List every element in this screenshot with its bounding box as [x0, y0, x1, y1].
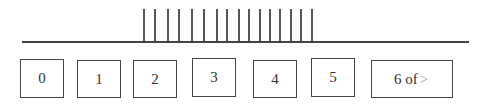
- page-box-4[interactable]: 4: [253, 60, 297, 98]
- tick-mark: [203, 9, 205, 41]
- tick-mark: [226, 9, 228, 41]
- tick-marks: [0, 0, 482, 44]
- tick-mark: [259, 9, 261, 41]
- next-page-button[interactable]: 6 of >: [371, 60, 453, 98]
- page-label: 5: [329, 69, 337, 86]
- tick-mark: [300, 9, 302, 41]
- tick-mark: [311, 9, 313, 41]
- tick-mark: [248, 9, 250, 41]
- chevron-right-icon: >: [420, 71, 428, 88]
- tick-mark: [216, 9, 218, 41]
- tick-mark: [290, 9, 292, 41]
- tick-mark: [167, 9, 169, 41]
- tick-mark: [154, 9, 156, 41]
- page-label: 2: [151, 71, 159, 88]
- page-count-label: 6 of: [394, 71, 418, 88]
- page-box-3[interactable]: 3: [192, 58, 236, 97]
- page-label: 3: [210, 69, 218, 86]
- page-box-2[interactable]: 2: [133, 60, 177, 98]
- tick-mark: [238, 9, 240, 41]
- tick-mark: [279, 9, 281, 41]
- tick-mark: [191, 9, 193, 41]
- tick-mark: [269, 9, 271, 41]
- page-box-5[interactable]: 5: [311, 58, 355, 97]
- tick-mark: [143, 9, 145, 41]
- tick-mark: [178, 9, 180, 41]
- page-label: 1: [95, 71, 103, 88]
- page-label: 0: [38, 70, 46, 87]
- page-label: 4: [271, 71, 279, 88]
- baseline: [22, 41, 469, 43]
- page-box-1[interactable]: 1: [77, 60, 121, 98]
- page-box-0[interactable]: 0: [20, 59, 64, 98]
